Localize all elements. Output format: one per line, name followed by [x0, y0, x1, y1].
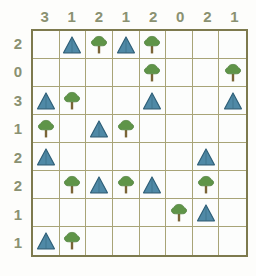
tent-icon	[222, 90, 244, 112]
grid-cell-r6c6[interactable]	[166, 171, 193, 199]
grid-cell-r5c2[interactable]	[60, 143, 87, 171]
row-clue-6: 2	[6, 172, 30, 201]
tree-icon	[88, 34, 110, 56]
grid-cell-r3c6[interactable]	[166, 87, 193, 115]
grid-cell-r3c7[interactable]	[193, 87, 220, 115]
grid-cell-r6c4[interactable]	[113, 171, 140, 199]
grid-cell-r8c7[interactable]	[193, 227, 220, 255]
grid-cell-r5c4[interactable]	[113, 143, 140, 171]
column-clue-8: 1	[221, 6, 248, 28]
grid-cell-r7c2[interactable]	[60, 199, 87, 227]
grid-cell-r8c1[interactable]	[33, 227, 60, 255]
column-clue-3: 2	[85, 6, 112, 28]
grid-cell-r3c1[interactable]	[33, 87, 60, 115]
tree-icon	[141, 62, 163, 84]
grid-cell-r2c2[interactable]	[60, 59, 87, 87]
tree-icon	[115, 118, 137, 140]
row-clue-7: 1	[6, 200, 30, 229]
row-clue-3: 3	[6, 86, 30, 115]
grid-cell-r2c1[interactable]	[33, 59, 60, 87]
column-clue-5: 2	[140, 6, 167, 28]
grid-cell-r1c8[interactable]	[219, 31, 246, 59]
grid-cell-r2c5[interactable]	[140, 59, 167, 87]
grid-cell-r5c1[interactable]	[33, 143, 60, 171]
tree-icon	[141, 34, 163, 56]
grid-cell-r5c8[interactable]	[219, 143, 246, 171]
grid-cell-r1c2[interactable]	[60, 31, 87, 59]
tent-icon	[141, 90, 163, 112]
grid-cell-r6c5[interactable]	[140, 171, 167, 199]
grid-cell-r2c7[interactable]	[193, 59, 220, 87]
column-clue-7: 2	[194, 6, 221, 28]
column-clue-6: 0	[167, 6, 194, 28]
grid-cell-r1c4[interactable]	[113, 31, 140, 59]
tree-icon	[222, 62, 244, 84]
row-clues: 20312211	[6, 29, 30, 257]
grid-cell-r8c6[interactable]	[166, 227, 193, 255]
grid-cell-r1c5[interactable]	[140, 31, 167, 59]
grid-cell-r8c5[interactable]	[140, 227, 167, 255]
grid-cell-r6c3[interactable]	[86, 171, 113, 199]
tree-icon	[35, 118, 57, 140]
tent-icon	[141, 174, 163, 196]
grid-cell-r2c4[interactable]	[113, 59, 140, 87]
tents-and-trees-puzzle: 31212021 20312211	[0, 0, 256, 276]
grid-cell-r3c4[interactable]	[113, 87, 140, 115]
grid-cell-r6c8[interactable]	[219, 171, 246, 199]
grid-cell-r7c6[interactable]	[166, 199, 193, 227]
row-clue-5: 2	[6, 143, 30, 172]
tent-icon	[88, 118, 110, 140]
grid-cell-r2c6[interactable]	[166, 59, 193, 87]
grid-cell-r4c2[interactable]	[60, 115, 87, 143]
row-clue-2: 0	[6, 58, 30, 87]
column-clue-1: 3	[31, 6, 58, 28]
grid-cell-r7c4[interactable]	[113, 199, 140, 227]
tent-icon	[195, 146, 217, 168]
grid-cell-r4c6[interactable]	[166, 115, 193, 143]
grid-cell-r7c1[interactable]	[33, 199, 60, 227]
grid-cell-r7c8[interactable]	[219, 199, 246, 227]
row-clue-1: 2	[6, 29, 30, 58]
grid-cell-r7c5[interactable]	[140, 199, 167, 227]
grid-cell-r3c8[interactable]	[219, 87, 246, 115]
grid-cell-r5c6[interactable]	[166, 143, 193, 171]
tree-icon	[168, 202, 190, 224]
puzzle-grid[interactable]	[31, 29, 248, 257]
grid-cell-r2c8[interactable]	[219, 59, 246, 87]
grid-cell-r4c4[interactable]	[113, 115, 140, 143]
grid-cell-r8c3[interactable]	[86, 227, 113, 255]
grid-cell-r6c2[interactable]	[60, 171, 87, 199]
tent-icon	[61, 34, 83, 56]
tent-icon	[115, 34, 137, 56]
column-clue-4: 1	[112, 6, 139, 28]
grid-cell-r7c7[interactable]	[193, 199, 220, 227]
grid-cell-r1c7[interactable]	[193, 31, 220, 59]
row-clue-8: 1	[6, 229, 30, 258]
grid-cell-r3c3[interactable]	[86, 87, 113, 115]
grid-cell-r4c1[interactable]	[33, 115, 60, 143]
grid-cell-r4c8[interactable]	[219, 115, 246, 143]
grid-cell-r4c3[interactable]	[86, 115, 113, 143]
grid-cell-r4c5[interactable]	[140, 115, 167, 143]
grid-cell-r7c3[interactable]	[86, 199, 113, 227]
grid-cell-r5c5[interactable]	[140, 143, 167, 171]
grid-cell-r5c3[interactable]	[86, 143, 113, 171]
grid-cell-r2c3[interactable]	[86, 59, 113, 87]
grid-cell-r8c8[interactable]	[219, 227, 246, 255]
grid-cell-r5c7[interactable]	[193, 143, 220, 171]
grid-cell-r8c4[interactable]	[113, 227, 140, 255]
tent-icon	[35, 90, 57, 112]
grid-cell-r3c2[interactable]	[60, 87, 87, 115]
grid-cell-r8c2[interactable]	[60, 227, 87, 255]
tent-icon	[35, 230, 57, 252]
grid-cell-r1c3[interactable]	[86, 31, 113, 59]
grid-cell-r6c7[interactable]	[193, 171, 220, 199]
grid-cell-r4c7[interactable]	[193, 115, 220, 143]
tent-icon	[88, 174, 110, 196]
grid-cell-r1c1[interactable]	[33, 31, 60, 59]
grid-cell-r3c5[interactable]	[140, 87, 167, 115]
tree-icon	[61, 230, 83, 252]
grid-cell-r1c6[interactable]	[166, 31, 193, 59]
grid-cell-r6c1[interactable]	[33, 171, 60, 199]
tent-icon	[195, 202, 217, 224]
